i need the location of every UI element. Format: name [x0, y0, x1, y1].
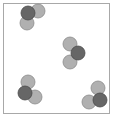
molecule-center [63, 37, 85, 69]
molecules-group [18, 4, 107, 109]
molecule-bottom-left [18, 75, 42, 104]
dark-atom [18, 86, 32, 100]
dark-atom [93, 93, 107, 107]
molecule-top-left [20, 4, 45, 30]
dark-atom [71, 46, 85, 60]
molecule-diagram [0, 0, 113, 117]
dark-atom [21, 6, 35, 20]
molecule-bottom-right [82, 81, 107, 109]
